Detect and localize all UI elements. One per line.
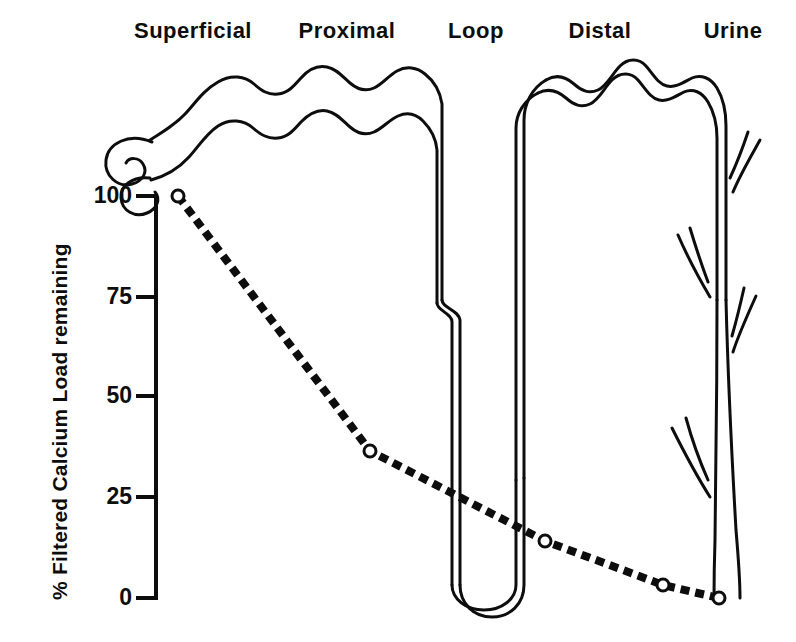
nephron-tubule-outline	[106, 60, 760, 617]
segment-label-loop: Loop	[446, 18, 506, 44]
segment-label-distal: Distal	[558, 18, 642, 44]
ascending-limb-inner	[516, 93, 538, 480]
y-tick-label-100: 100	[58, 182, 132, 209]
collecting-duct-branch-2-outer	[690, 228, 708, 282]
data-point-distal	[657, 579, 669, 591]
calcium-load-curve	[178, 196, 719, 598]
y-axis	[138, 196, 156, 598]
segment-label-urine: Urine	[697, 18, 769, 44]
collecting-duct-left-wall	[714, 300, 717, 600]
distal-tubule-outer-wall	[546, 60, 726, 300]
calcium-load-markers	[172, 190, 725, 604]
data-point-proximal	[364, 445, 376, 457]
collecting-duct-branch-4-outer	[686, 418, 708, 480]
calcium-load-dashed-line	[178, 196, 719, 598]
segment-label-superficial: Superficial	[131, 18, 255, 44]
ascending-limb-outer	[524, 80, 546, 478]
collecting-duct-branch-1-inner	[733, 140, 760, 192]
data-point-loop	[539, 535, 551, 547]
distal-tubule-inner-wall	[538, 74, 717, 300]
collecting-duct-branch-1-outer	[730, 132, 748, 178]
data-point-urine	[713, 592, 725, 604]
proximal-tubule-inner-wall	[151, 111, 437, 303]
nephron-calcium-figure: Superficial Proximal Loop Distal Urine 1…	[0, 0, 796, 642]
collecting-duct-right-wall	[726, 300, 740, 598]
segment-label-proximal: Proximal	[297, 18, 397, 44]
y-axis-title: % Filtered Calcium Load remaining	[48, 243, 72, 600]
descending-limb-inner	[437, 303, 452, 585]
proximal-tubule-outer-wall	[150, 67, 442, 300]
figure-canvas	[0, 0, 796, 642]
data-point-superficial	[172, 190, 184, 202]
